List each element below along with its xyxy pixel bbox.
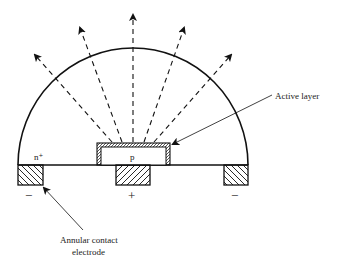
p-region-label: p xyxy=(130,152,135,162)
arrow-left xyxy=(80,28,122,142)
electrode-label-line2: electrode xyxy=(72,247,105,257)
electrode-label-line1: Annular contact xyxy=(60,235,118,245)
n-region-label: n⁺ xyxy=(34,152,44,162)
emission-arrows xyxy=(35,15,231,142)
arrow-right xyxy=(144,28,184,142)
arrow-far-right xyxy=(154,55,231,142)
center-electrode xyxy=(116,165,150,185)
center-polarity: + xyxy=(128,188,135,203)
arrow-far-left xyxy=(35,55,112,142)
active-layer-leader xyxy=(173,95,272,144)
right-polarity: − xyxy=(231,188,238,203)
left-polarity: − xyxy=(25,188,32,203)
electrode-leader xyxy=(44,188,83,230)
left-electrode xyxy=(18,165,43,185)
led-dome-diagram: n⁺ p − + − Active layer Annular contact … xyxy=(0,0,343,268)
right-electrode xyxy=(224,165,248,185)
active-layer-label: Active layer xyxy=(275,91,319,101)
